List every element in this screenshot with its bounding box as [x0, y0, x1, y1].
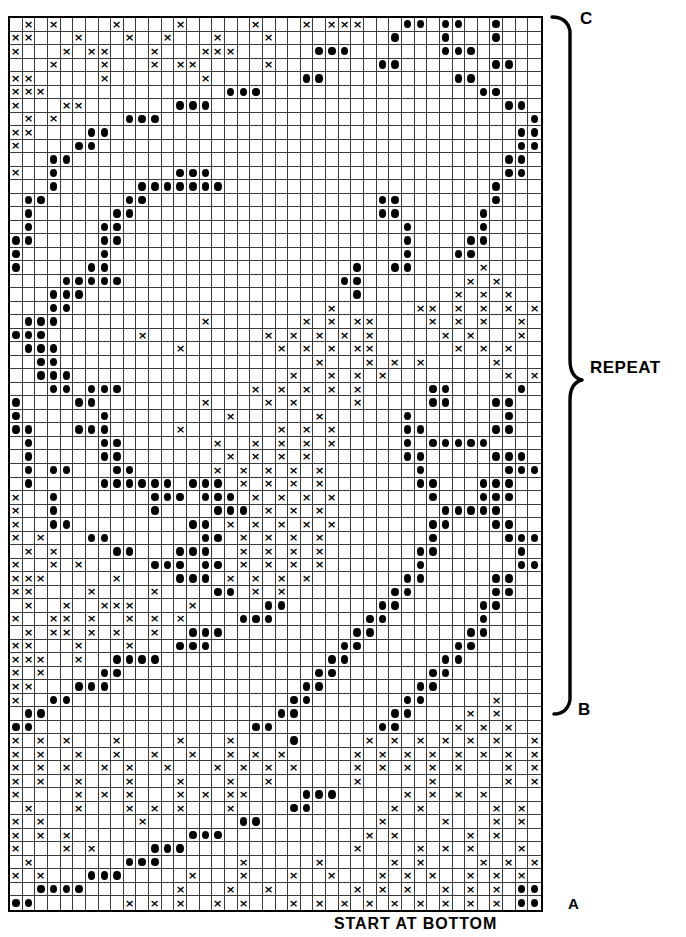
blank-cell	[124, 221, 137, 235]
blank-cell	[10, 153, 23, 167]
dot-stitch-cell	[389, 194, 402, 208]
blank-cell	[351, 788, 364, 802]
blank-cell	[238, 126, 251, 140]
blank-cell	[440, 478, 453, 492]
blank-cell	[415, 194, 428, 208]
blank-cell	[440, 113, 453, 127]
cross-stitch-cell	[86, 586, 99, 600]
blank-cell	[174, 829, 187, 843]
dot-stitch-cell	[48, 356, 61, 370]
blank-cell	[111, 586, 124, 600]
blank-cell	[516, 694, 529, 708]
blank-cell	[263, 248, 276, 262]
blank-cell	[238, 842, 251, 856]
cross-stitch-cell	[326, 423, 339, 437]
blank-cell	[250, 59, 263, 73]
cross-stitch-cell	[174, 896, 187, 910]
blank-cell	[427, 653, 440, 667]
dot-stitch-cell	[478, 221, 491, 235]
blank-cell	[136, 559, 149, 573]
cross-stitch-cell	[351, 369, 364, 383]
blank-cell	[364, 464, 377, 478]
blank-cell	[48, 802, 61, 816]
blank-cell	[187, 667, 200, 681]
blank-cell	[200, 383, 213, 397]
blank-cell	[99, 856, 112, 870]
blank-cell	[111, 410, 124, 424]
blank-cell	[339, 748, 352, 762]
blank-cell	[427, 842, 440, 856]
blank-cell	[440, 194, 453, 208]
cross-stitch-cell	[174, 775, 187, 789]
blank-cell	[48, 640, 61, 654]
blank-cell	[250, 342, 263, 356]
blank-cell	[23, 302, 36, 316]
blank-cell	[326, 59, 339, 73]
blank-cell	[73, 180, 86, 194]
blank-cell	[48, 653, 61, 667]
blank-cell	[453, 815, 466, 829]
blank-cell	[200, 153, 213, 167]
dot-stitch-cell	[402, 234, 415, 248]
cross-stitch-cell	[10, 869, 23, 883]
blank-cell	[402, 329, 415, 343]
blank-cell	[73, 829, 86, 843]
cross-stitch-cell	[465, 329, 478, 343]
blank-cell	[35, 559, 48, 573]
blank-cell	[377, 18, 390, 32]
blank-cell	[402, 815, 415, 829]
blank-cell	[339, 761, 352, 775]
blank-cell	[276, 221, 289, 235]
blank-cell	[149, 396, 162, 410]
blank-cell	[200, 126, 213, 140]
dot-stitch-cell	[212, 505, 225, 519]
blank-cell	[364, 572, 377, 586]
cross-stitch-cell	[73, 559, 86, 573]
blank-cell	[35, 261, 48, 275]
blank-cell	[465, 572, 478, 586]
blank-cell	[250, 180, 263, 194]
blank-cell	[440, 221, 453, 235]
blank-cell	[111, 694, 124, 708]
blank-cell	[478, 896, 491, 910]
blank-cell	[48, 72, 61, 86]
blank-cell	[465, 410, 478, 424]
cross-stitch-cell	[377, 815, 390, 829]
cross-stitch-cell	[288, 545, 301, 559]
blank-cell	[99, 613, 112, 627]
blank-cell	[225, 207, 238, 221]
blank-cell	[339, 829, 352, 843]
cross-stitch-cell	[440, 896, 453, 910]
blank-cell	[124, 234, 137, 248]
blank-cell	[288, 829, 301, 843]
blank-cell	[364, 207, 377, 221]
blank-cell	[174, 194, 187, 208]
dot-stitch-cell	[99, 383, 112, 397]
blank-cell	[174, 653, 187, 667]
blank-cell	[351, 896, 364, 910]
cross-stitch-cell	[326, 315, 339, 329]
cross-stitch-cell	[10, 532, 23, 546]
dot-stitch-cell	[516, 896, 529, 910]
blank-cell	[301, 815, 314, 829]
blank-cell	[288, 126, 301, 140]
cross-stitch-cell	[402, 869, 415, 883]
blank-cell	[238, 626, 251, 640]
dot-stitch-cell	[490, 59, 503, 73]
dot-stitch-cell	[440, 396, 453, 410]
cross-stitch-cell	[528, 856, 541, 870]
blank-cell	[212, 18, 225, 32]
blank-cell	[427, 464, 440, 478]
blank-cell	[427, 505, 440, 519]
blank-cell	[389, 613, 402, 627]
blank-cell	[313, 802, 326, 816]
blank-cell	[276, 410, 289, 424]
blank-cell	[326, 72, 339, 86]
blank-cell	[23, 518, 36, 532]
blank-cell	[276, 680, 289, 694]
blank-cell	[124, 518, 137, 532]
blank-cell	[124, 59, 137, 73]
blank-cell	[528, 842, 541, 856]
blank-cell	[99, 883, 112, 897]
blank-cell	[326, 545, 339, 559]
